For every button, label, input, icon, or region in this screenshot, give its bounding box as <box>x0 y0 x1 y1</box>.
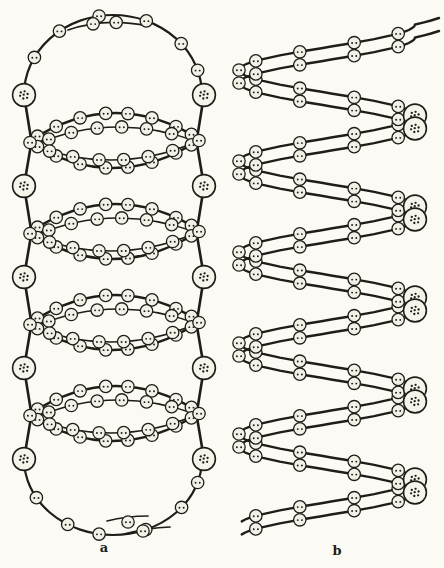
atom-bead <box>348 505 360 517</box>
atom-bead <box>74 385 86 397</box>
atom-bead <box>122 289 134 301</box>
atom-bead <box>250 68 262 80</box>
atom-bead <box>294 82 306 94</box>
side-group-atom-bead <box>193 175 216 198</box>
atom-bead <box>67 332 79 344</box>
side-group-atom-bead <box>404 481 427 504</box>
side-group-atom-bead <box>404 299 427 322</box>
atom-bead <box>61 518 73 530</box>
atom-bead <box>74 112 86 124</box>
side-group-atom-bead <box>404 390 427 413</box>
atom-bead <box>392 40 404 52</box>
atom-bead <box>392 27 404 39</box>
atom-bead <box>348 141 360 153</box>
atom-bead <box>348 310 360 322</box>
atom-bead <box>191 64 203 76</box>
atom-bead <box>392 113 404 125</box>
atom-bead <box>24 318 36 330</box>
atom-bead <box>348 455 360 467</box>
atom-bead <box>166 235 178 247</box>
atom-bead <box>43 224 55 236</box>
atom-bead <box>166 326 178 338</box>
atom-bead <box>348 232 360 244</box>
atom-bead <box>43 315 55 327</box>
atom-bead <box>294 137 306 149</box>
atom-bead <box>392 495 404 507</box>
atom-bead <box>165 309 177 321</box>
atom-bead <box>142 332 154 344</box>
atom-bead <box>348 50 360 62</box>
atom-bead <box>250 159 262 171</box>
atom-bead <box>294 514 306 526</box>
atom-bead <box>392 373 404 385</box>
atom-bead <box>65 217 77 229</box>
atom-bead <box>392 464 404 476</box>
atom-bead <box>140 15 152 27</box>
atom-bead <box>122 380 134 392</box>
atom-bead <box>53 25 65 37</box>
atom-bead <box>117 153 129 165</box>
atom-bead <box>93 245 105 257</box>
atom-bead <box>233 350 245 362</box>
atom-bead <box>165 127 177 139</box>
atom-bead <box>24 136 36 148</box>
atom-bead <box>348 377 360 389</box>
atom-bead <box>250 146 262 158</box>
atom-bead <box>294 501 306 513</box>
atom-bead <box>392 477 404 489</box>
atom-bead <box>294 95 306 107</box>
atom-bead <box>348 323 360 335</box>
atom-bead <box>67 423 79 435</box>
atom-bead <box>233 246 245 258</box>
atom-bead <box>294 319 306 331</box>
atom-bead <box>165 400 177 412</box>
atom-bead <box>250 523 262 535</box>
atom-bead <box>250 177 262 189</box>
atom-bead <box>166 417 178 429</box>
side-group-atom-bead <box>13 357 36 380</box>
side-group-atom-bead <box>13 266 36 289</box>
atom-bead <box>122 516 134 528</box>
atom-bead <box>93 427 105 439</box>
atom-bead <box>140 305 152 317</box>
atom-bead <box>175 37 187 49</box>
atom-bead <box>348 273 360 285</box>
atom-bead <box>294 150 306 162</box>
atom-bead <box>392 404 404 416</box>
atom-bead <box>250 419 262 431</box>
atom-bead <box>93 336 105 348</box>
side-group-atom-bead <box>13 448 36 471</box>
atom-bead <box>50 393 62 405</box>
atom-bead <box>348 219 360 231</box>
atom-bead <box>348 401 360 413</box>
atom-bead <box>67 150 79 162</box>
atom-bead <box>142 423 154 435</box>
atom-bead <box>116 394 128 406</box>
atom-bead <box>348 468 360 480</box>
atom-bead <box>294 459 306 471</box>
atom-bead <box>166 144 178 156</box>
atom-bead <box>233 64 245 76</box>
helix-axial-view <box>13 10 216 540</box>
helix-diagram <box>0 0 444 568</box>
atom-bead <box>24 227 36 239</box>
atom-bead <box>117 244 129 256</box>
atom-bead <box>91 395 103 407</box>
atom-bead <box>348 492 360 504</box>
atom-bead <box>294 410 306 422</box>
atom-bead <box>392 295 404 307</box>
atom-bead <box>191 476 203 488</box>
atom-bead <box>116 303 128 315</box>
figure-canvas: a b <box>0 0 444 568</box>
atom-bead <box>348 128 360 140</box>
atom-bead <box>233 168 245 180</box>
atom-bead <box>348 182 360 194</box>
atom-bead <box>165 218 177 230</box>
atom-bead <box>67 241 79 253</box>
atom-bead <box>233 259 245 271</box>
atom-bead <box>87 18 99 30</box>
atom-bead <box>65 399 77 411</box>
side-group-atom-bead <box>193 266 216 289</box>
atom-bead <box>175 501 187 513</box>
side-group-atom-bead <box>404 117 427 140</box>
